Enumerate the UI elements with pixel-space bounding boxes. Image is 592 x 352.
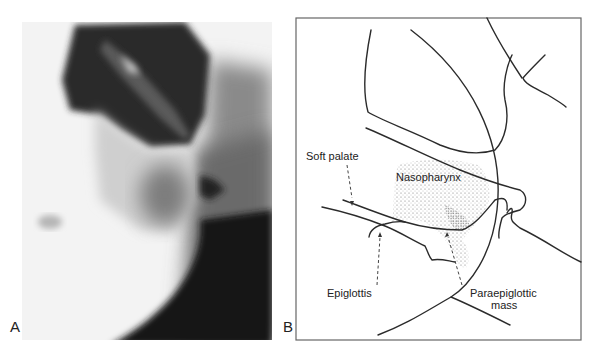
anatomical-diagram: Soft palate Nasopharynx Epiglottis Parae… — [280, 0, 592, 352]
panel-b-diagram: Soft palate Nasopharynx Epiglottis Parae… — [280, 0, 592, 352]
label-epiglottis: Epiglottis — [327, 287, 372, 299]
label-soft-palate: Soft palate — [306, 150, 359, 162]
panel-letter-b: B — [283, 318, 293, 335]
panel-a-radiograph: A — [0, 0, 280, 352]
panel-letter-a: A — [10, 318, 20, 335]
label-nasopharynx: Nasopharynx — [396, 171, 461, 183]
radiograph-image — [0, 0, 280, 352]
label-paraepiglottic: Paraepiglottic — [470, 287, 537, 299]
label-mass: mass — [491, 299, 518, 311]
